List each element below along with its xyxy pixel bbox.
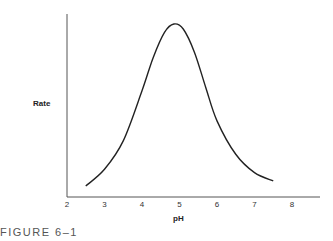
x-tick-label: 3 [102, 200, 106, 209]
x-tick-label: 5 [177, 200, 181, 209]
y-axis-label: Rate [33, 99, 50, 108]
chart-plot-area [0, 0, 333, 241]
x-tick-label: 6 [215, 200, 219, 209]
x-tick-label: 2 [65, 200, 69, 209]
figure-caption: FIGURE 6–1 [0, 226, 78, 238]
x-axis-label: pH [173, 214, 184, 223]
rate-curve [86, 24, 274, 186]
x-tick-label: 8 [290, 200, 294, 209]
x-tick-label: 4 [140, 200, 144, 209]
x-tick-label: 7 [252, 200, 256, 209]
